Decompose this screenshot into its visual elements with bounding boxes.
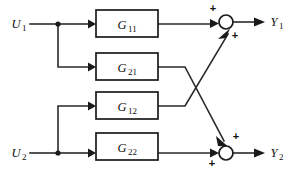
block-g21-label: G [117,61,126,75]
block-g11-label: G [117,18,126,32]
wire-u1-input [30,24,88,67]
block-diagram-canvas: G 11 G 21 G 12 G 22 + + + + U 1 [0,0,290,178]
arrowhead-into-g11 [88,20,96,29]
input-label-u2-subscript: 2 [22,152,27,162]
block-g12-subscript: 12 [128,106,137,116]
block-g22-subscript: 22 [128,147,137,157]
output-label-y1-subscript: 1 [279,21,284,31]
arrowhead-into-g21 [88,63,96,72]
input-label-u2-base: U [11,146,21,160]
block-g22[interactable]: G 22 [96,133,158,160]
summing-junction-y2[interactable] [219,146,233,160]
block-g11-rect[interactable] [96,10,158,37]
block-diagram-svg: G 11 G 21 G 12 G 22 + + + + U 1 [0,0,290,178]
input-label-u1-base: U [11,17,21,31]
sign-label-y2-bottom: + [209,157,215,169]
block-g12-label: G [117,100,126,114]
block-g12[interactable]: G 12 [96,92,158,119]
wire-segment-branch-to-g21 [58,24,88,67]
block-g12-rect[interactable] [96,92,158,119]
block-g22-label: G [117,141,126,155]
sign-label-y1-bottom: + [232,29,238,41]
block-g21-rect[interactable] [96,53,158,80]
output-label-y1: Y 1 [271,15,284,31]
arrowhead-output-y1 [254,18,265,27]
block-g21-subscript: 21 [128,67,137,77]
arrowhead-into-g12 [88,102,96,111]
block-g11-subscript: 11 [128,24,137,34]
block-g22-rect[interactable] [96,133,158,160]
output-label-y2-subscript: 2 [279,152,284,162]
input-label-u1: U 1 [11,17,26,33]
sign-label-y1-top: + [210,2,216,14]
output-label-y2: Y 2 [271,146,284,162]
block-g11[interactable]: G 11 [96,10,158,37]
branch-dot-u2 [55,150,60,155]
arrowhead-into-g22 [88,149,96,158]
branch-dot-u1 [55,21,60,26]
summing-junction-y1[interactable] [219,15,233,29]
block-g21[interactable]: G 21 [96,53,158,80]
wire-segment-branch-to-g12 [58,106,88,153]
arrowhead-into-sum-y1-horizontal [210,19,219,28]
wire-g12-to-sum-y1 [158,34,228,106]
input-label-u1-subscript: 1 [22,23,27,33]
sign-label-y2-top: + [233,130,239,142]
wire-u2-input [30,106,88,153]
input-label-u2: U 2 [11,146,26,162]
arrowhead-output-y2 [254,149,265,158]
wire-g21-to-sum-y2 [158,67,224,141]
